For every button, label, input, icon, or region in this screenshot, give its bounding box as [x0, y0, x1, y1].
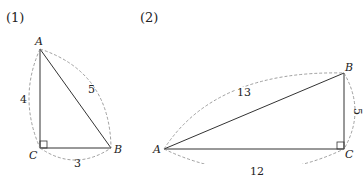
right-angle-marker — [40, 141, 47, 148]
figure-1-vertex-b: B — [114, 144, 122, 155]
right-angle-marker — [337, 142, 344, 149]
figure-2-vertex-a: A — [153, 144, 161, 155]
brace-ac — [164, 149, 344, 164]
figure-1-vertex-a: A — [35, 36, 43, 47]
figure-1-side-ac: 4 — [20, 94, 27, 105]
figure-1-triangle — [29, 49, 111, 160]
figure-2-number: (2) — [140, 11, 158, 24]
figure-2-side-ac: 12 — [250, 166, 264, 177]
figure-2-vertex-b: B — [345, 62, 353, 73]
figure-1-side-cb: 3 — [74, 158, 81, 169]
figure-2-vertex-c: C — [345, 149, 353, 160]
figure-2-side-ab: 13 — [236, 87, 252, 98]
brace-ac — [29, 49, 40, 148]
figure-1-number: (1) — [6, 11, 24, 24]
figure-1-vertex-c: C — [29, 150, 37, 161]
figure-2-side-bc: 5 — [352, 108, 363, 115]
figure-2-triangle — [164, 73, 355, 164]
figure-1-side-ab: 5 — [88, 84, 95, 95]
